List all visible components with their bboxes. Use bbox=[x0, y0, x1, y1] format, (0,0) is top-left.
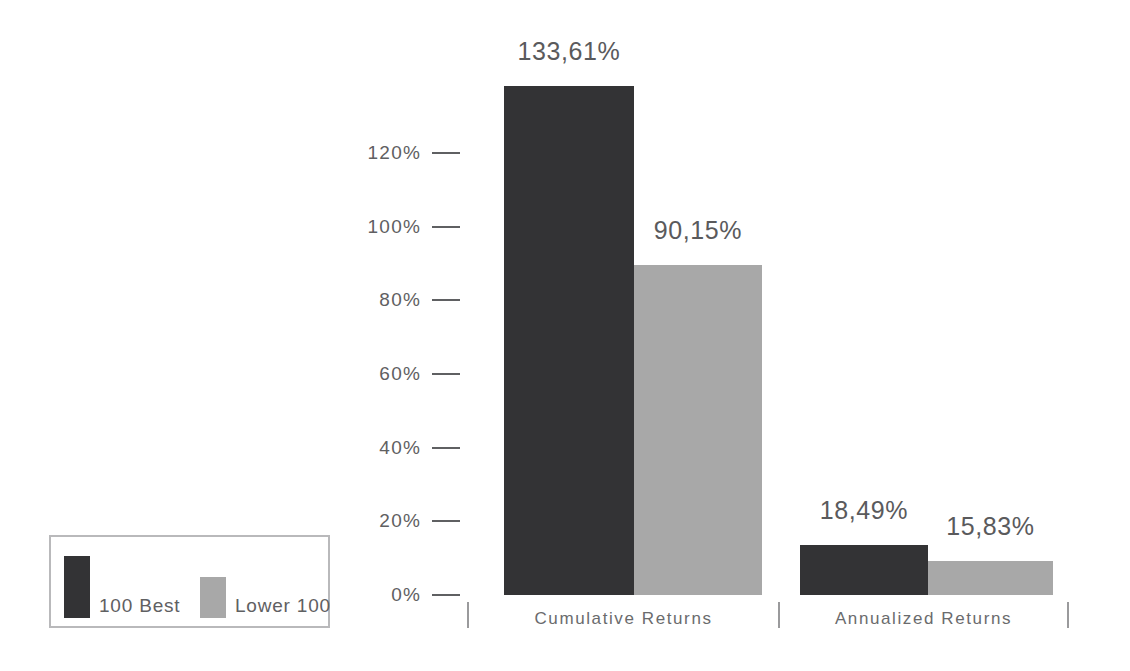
legend-item-label: 100 Best bbox=[99, 596, 180, 618]
legend-swatch-icon bbox=[200, 577, 226, 618]
legend-item-label: Lower 100 bbox=[235, 596, 331, 618]
bar-cumulative-100-best[interactable] bbox=[504, 86, 634, 595]
bar-cumulative-lower-100[interactable] bbox=[634, 265, 762, 595]
bar-value-label-annualized-lower-100: 15,83% bbox=[928, 512, 1053, 541]
bar-annualized-100-best[interactable] bbox=[800, 545, 928, 595]
x-axis-label-annualized-returns: Annualized Returns bbox=[780, 609, 1067, 629]
bar-annualized-lower-100[interactable] bbox=[928, 561, 1053, 595]
bar-value-label-annualized-100-best: 18,49% bbox=[800, 496, 928, 525]
legend-swatch-icon bbox=[64, 556, 90, 618]
bar-value-label-cumulative-100-best: 133,61% bbox=[504, 37, 634, 66]
legend-item-lower-100[interactable]: Lower 100 bbox=[200, 577, 331, 618]
bar-value-label-cumulative-lower-100: 90,15% bbox=[634, 216, 762, 245]
legend: 100 Best Lower 100 bbox=[49, 535, 330, 628]
bar-chart: 120% 100% 80% 60% 40% 20% 0% bbox=[0, 0, 1130, 671]
legend-item-100-best[interactable]: 100 Best bbox=[64, 556, 180, 618]
x-axis-label-cumulative-returns: Cumulative Returns bbox=[469, 609, 778, 629]
x-axis-separator-right bbox=[1067, 602, 1069, 628]
